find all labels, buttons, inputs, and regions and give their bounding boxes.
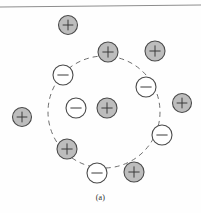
charge-pos-top-right-outside — [145, 41, 165, 61]
charge-pos-right-boundary — [173, 94, 192, 113]
top-rule-line — [0, 5, 201, 7]
charge-neg-upper-left-boundary — [53, 65, 73, 85]
charge-pos-lower-left-boundary — [57, 139, 77, 159]
charge-pos-center — [97, 98, 117, 118]
charge-pos-top-on-boundary — [98, 42, 118, 62]
charge-pos-far-left-outside — [13, 108, 32, 127]
charge-pos-bottom-boundary — [124, 162, 144, 182]
charge-distribution-diagram — [0, 0, 201, 213]
charge-neg-lower-right — [152, 125, 172, 145]
horizontal-rule — [0, 5, 201, 7]
charge-markers — [13, 16, 192, 184]
charge-pos-top-outside — [59, 16, 78, 35]
charge-neg-right-inside — [136, 77, 156, 97]
figure-caption: (a) — [0, 193, 201, 202]
charge-neg-center-left — [66, 98, 86, 118]
charge-neg-bottom-boundary — [87, 163, 107, 183]
figure-container: (a) — [0, 0, 201, 213]
